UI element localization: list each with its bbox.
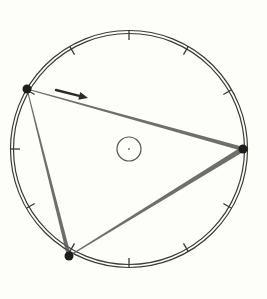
center-point [128, 148, 130, 150]
edge-a-b [27, 89, 244, 152]
arrow-shaft [56, 90, 79, 96]
edge-c-b [69, 147, 245, 257]
vertex-dot-a [23, 85, 32, 94]
vertex-dot-c [65, 252, 74, 261]
circle-triangle-diagram [0, 0, 267, 299]
vertex-dots [23, 85, 248, 261]
vertex-dot-b [239, 145, 248, 154]
arrow-head [78, 92, 88, 100]
inscribed-triangle [27, 89, 245, 257]
center-circle [117, 137, 141, 161]
